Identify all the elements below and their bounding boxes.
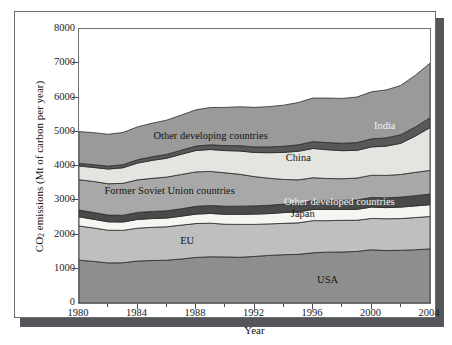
y-axis-title: CO2 emissions (Mt of carbon per year): [33, 42, 46, 292]
y-axis-title-text: CO: [33, 237, 45, 252]
x-axis-minor-tick-mark: [107, 304, 108, 307]
plot-area: USAEUJapanOther developed countriesForme…: [78, 28, 431, 304]
chart-panel: 010002000300040005000600070008000 CO2 em…: [14, 11, 436, 318]
figure-root: 010002000300040005000600070008000 CO2 em…: [0, 0, 452, 345]
x-axis-minor-tick-mark: [283, 304, 284, 307]
x-axis-tick-label: 1988: [173, 307, 217, 318]
y-axis-title-subscript: 2: [37, 233, 46, 237]
y-axis-tick-label: 0: [35, 297, 75, 308]
y-axis-title-rest: emissions (Mt of carbon per year): [33, 81, 45, 233]
y-axis-tick-label: 8000: [35, 23, 75, 34]
x-axis-minor-tick-mark: [341, 304, 342, 307]
x-axis-tick-label: 1996: [290, 307, 334, 318]
x-axis-minor-tick-mark: [400, 304, 401, 307]
x-axis-minor-tick-mark: [224, 304, 225, 307]
x-axis-tick-label: 2004: [407, 307, 451, 318]
stacked-area-chart: [79, 29, 430, 303]
x-axis-title: Year: [78, 324, 431, 336]
x-axis-tick-label: 2000: [349, 307, 393, 318]
x-axis-tick-label: 1980: [56, 307, 100, 318]
x-axis-tick-label: 1992: [232, 307, 276, 318]
x-axis-tick-label: 1984: [115, 307, 159, 318]
x-axis-minor-tick-mark: [166, 304, 167, 307]
chart-stage: 010002000300040005000600070008000 CO2 em…: [15, 12, 437, 319]
